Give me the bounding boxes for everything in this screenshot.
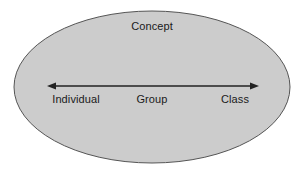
concept-diagram: Concept Individual Group Class [0,0,304,174]
concept-title-label: Concept [0,20,304,33]
axis-label-class: Class [175,93,295,106]
